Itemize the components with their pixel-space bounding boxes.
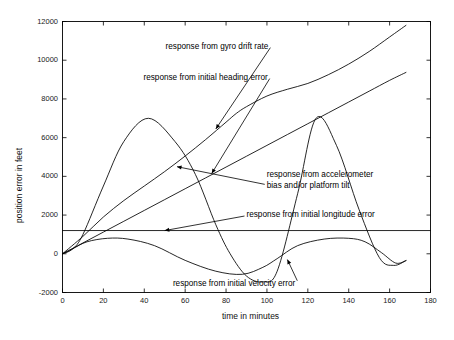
y-tick-label: 10000 [20,56,58,64]
y-tick-label: 12000 [20,18,58,26]
annotation-gyro-drift-rate: response from gyro drift rate [166,42,269,53]
x-tick-label: 100 [259,297,275,305]
x-tick-label: 60 [177,297,193,305]
y-tick-label: 0 [20,250,58,258]
axis-ticks [63,22,431,293]
x-axis-title: time in minutes [222,311,279,321]
y-tick-label: 4000 [20,172,58,180]
x-tick-label: 140 [341,297,357,305]
axes-frame [63,22,431,293]
annotation-initial-longitude-error: response from initial longitude error [247,210,375,221]
annotation-initial-velocity-error: response from initial velocity error [173,279,295,290]
annotation-accelerometer-line1: response from accelerometer [267,170,373,179]
x-tick-label: 180 [423,297,439,305]
series-line-2 [63,116,406,282]
series-line-1 [63,72,406,253]
y-tick-label: 2000 [20,211,58,219]
annotation-accelerometer-line2: bias and/or platform tilt [267,181,350,190]
y-tick-label: 6000 [20,134,58,142]
y-tick-label: -2000 [20,289,58,297]
x-tick-label: 0 [55,297,71,305]
chart-figure: position error in feet time in minutes 0… [0,0,454,340]
x-tick-label: 40 [136,297,152,305]
y-tick-label: 8000 [20,95,58,103]
data-series-group [63,25,431,282]
annotation-accelerometer-bias: response from accelerometer bias and/or … [267,170,373,191]
annotation-initial-heading-error: response from initial heading error [143,73,267,84]
x-tick-label: 120 [300,297,316,305]
series-line-4 [63,238,406,274]
x-tick-label: 80 [218,297,234,305]
x-tick-label: 20 [95,297,111,305]
x-tick-label: 160 [382,297,398,305]
